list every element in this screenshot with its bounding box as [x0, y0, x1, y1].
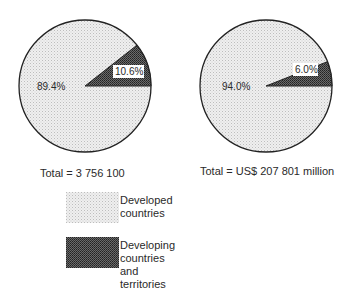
- pie-1-developing-label: 10.6%: [115, 66, 143, 77]
- pie-1-developed-label: 89.4%: [37, 81, 65, 92]
- pie-2-total: Total = US$ 207 801 million: [200, 165, 334, 177]
- legend-swatch-developing: [66, 237, 119, 268]
- pie-2-developed-label: 94.0%: [222, 81, 250, 92]
- legend-label-developing: Developing countries and territories: [120, 239, 175, 291]
- legend-swatch-developed: [66, 192, 119, 223]
- pie-charts: 89.4% 10.6% 94.0% 6.0%: [0, 0, 363, 170]
- pie-chart-2: 94.0% 6.0%: [200, 20, 332, 152]
- pie-chart-1: 89.4% 10.6%: [19, 20, 151, 152]
- pie-1-total: Total = 3 756 100: [40, 167, 125, 179]
- legend-label-developed: Developed countries: [120, 194, 173, 220]
- pie-2-developing-label: 6.0%: [295, 64, 318, 75]
